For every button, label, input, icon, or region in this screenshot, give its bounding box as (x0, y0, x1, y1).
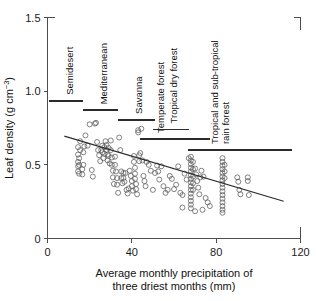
data-point (220, 207, 225, 212)
data-point (134, 187, 139, 192)
data-point (133, 171, 138, 176)
x-axis-title-line2: three driest months (mm) (113, 280, 236, 292)
x-tick-label: 0 (44, 246, 50, 258)
data-point (197, 192, 202, 197)
data-point (114, 169, 119, 174)
data-point (98, 159, 103, 164)
data-point (112, 162, 117, 167)
data-point (117, 135, 122, 140)
data-point (112, 154, 117, 159)
y-axis-title-close: ) (3, 77, 15, 81)
data-point (141, 173, 146, 178)
y-tick-label: 0.5 (25, 159, 40, 171)
data-point (83, 133, 88, 138)
data-point (156, 169, 161, 174)
habitat-label-1: Semidesert (64, 46, 75, 94)
data-point (199, 168, 204, 173)
data-point (135, 192, 140, 197)
data-point (139, 126, 144, 131)
data-point (245, 179, 250, 184)
data-point (108, 138, 113, 143)
data-point (80, 172, 85, 177)
data-point (246, 193, 251, 198)
y-tick-label: 1.5 (25, 12, 40, 24)
data-point (161, 184, 166, 189)
data-point (180, 205, 185, 210)
habitat-label-3: Savanna (133, 76, 144, 114)
data-point (150, 187, 155, 192)
data-point (95, 140, 100, 145)
y-axis-title-exponent: −3 (2, 81, 11, 90)
y-axis-title: Leaf density (g cm−3) (2, 77, 16, 179)
data-point (193, 209, 198, 214)
data-point (89, 167, 94, 172)
data-point (200, 207, 205, 212)
data-point (87, 122, 92, 127)
habitat-label-4: Tropical dry forest (168, 47, 179, 123)
data-point (176, 164, 181, 169)
data-point (131, 159, 136, 164)
leaf-density-precipitation-chart: 00.51.01.504080120SemidesertMediterranea… (0, 0, 316, 301)
data-point (90, 174, 95, 179)
data-point (115, 182, 120, 187)
x-tick-label: 80 (210, 246, 222, 258)
habitat-label-6-line1: Tropical and sub-tropical (209, 40, 220, 144)
x-tick-label: 40 (126, 246, 138, 258)
habitat-label-6-line2: rain forest (220, 101, 231, 144)
data-point (116, 190, 121, 195)
x-tick-label: 120 (291, 246, 309, 258)
data-point (133, 165, 138, 170)
data-point (220, 210, 225, 215)
data-point (143, 184, 148, 189)
data-point (127, 168, 132, 173)
x-axis-title-line1: Average monthly precipitation of (96, 267, 254, 279)
chart-canvas: 00.51.01.504080120SemidesertMediterranea… (0, 0, 316, 301)
data-point (196, 185, 201, 190)
y-tick-label: 1.0 (25, 85, 40, 97)
data-point (153, 170, 158, 175)
habitat-label-2: Mediterranean (98, 43, 109, 104)
habitat-label-group-6: Tropical and sub-tropicalrain forest (209, 40, 231, 144)
data-point (142, 179, 147, 184)
data-point (157, 177, 162, 182)
axis-top-right-corner (294, 18, 301, 30)
data-point (174, 182, 179, 187)
y-tick-label: 0 (34, 233, 40, 245)
habitat-label-5: Temperate forest (155, 61, 166, 133)
data-point (134, 181, 139, 186)
y-axis-title-main: Leaf density (g cm (3, 89, 15, 179)
